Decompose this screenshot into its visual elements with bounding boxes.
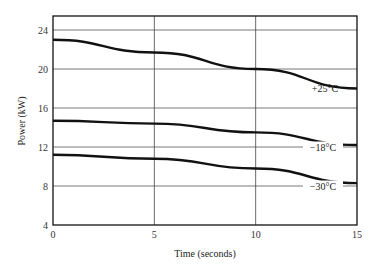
y-tick-label: 8 — [43, 181, 48, 192]
label-plus25: +25°C — [312, 83, 339, 94]
y-axis-label: Power (kW) — [16, 96, 28, 145]
label-minus18: −18°C — [310, 142, 337, 153]
x-tick-label: 10 — [251, 229, 261, 240]
x-tick-label: 5 — [152, 229, 157, 240]
x-axis-label: Time (seconds) — [174, 248, 236, 260]
plot-frame — [53, 16, 357, 225]
x-tick-label: 15 — [352, 229, 362, 240]
x-tick-label: 0 — [51, 229, 56, 240]
grid — [53, 16, 357, 225]
y-tick-label: 20 — [38, 64, 48, 75]
y-tick-label: 4 — [43, 220, 48, 231]
y-axis-ticks: 4812162024 — [38, 25, 48, 231]
y-tick-label: 12 — [38, 142, 48, 153]
curve-0 — [53, 40, 357, 89]
power-vs-time-chart: 4812162024 051015 Time (seconds) Power (… — [0, 0, 380, 269]
curves — [53, 40, 357, 183]
y-tick-label: 24 — [38, 25, 48, 36]
label-minus30: −30°C — [310, 181, 337, 192]
curve-2 — [53, 155, 357, 183]
y-tick-label: 16 — [38, 103, 48, 114]
x-axis-ticks: 051015 — [51, 229, 363, 240]
